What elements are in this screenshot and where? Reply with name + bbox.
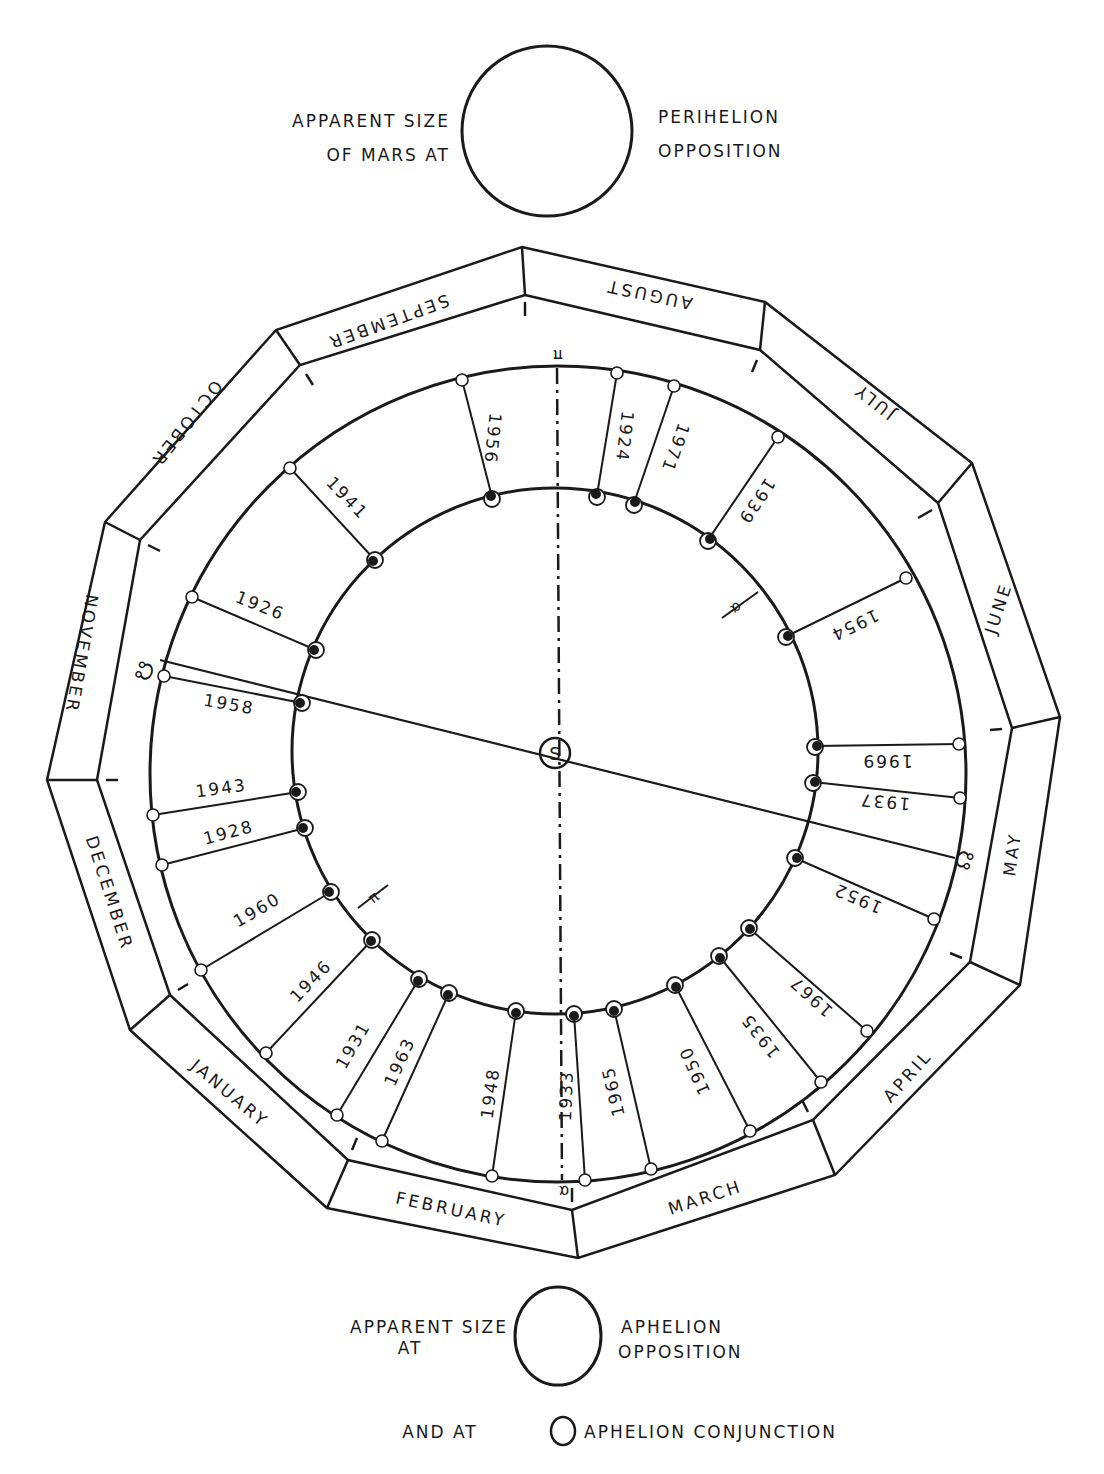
perihelion-symbol-top: π (551, 346, 563, 365)
month-september: SEPTEMBER (324, 290, 452, 353)
month-november: NOVEMBER (62, 593, 103, 716)
legend-top-right-line1: PERIHELION (658, 107, 780, 127)
year-1948: 1948 (477, 1066, 504, 1120)
year-1946: 1946 (286, 955, 336, 1006)
year-1958: 1958 (202, 690, 256, 719)
aphelion-conjunction-size-circle (551, 1417, 575, 1445)
year-1956: 1956 (480, 412, 505, 465)
year-1967: 1967 (785, 972, 836, 1021)
aphelion-opposition-size-circle (515, 1287, 601, 1385)
month-june: JUNE (980, 580, 1016, 637)
year-1971: 1971 (657, 421, 693, 476)
year-1969: 1969 (861, 751, 912, 771)
legend-top-right-line2: OPPOSITION (658, 141, 783, 161)
sun-label: S (549, 743, 560, 764)
month-april: APRIL (879, 1046, 936, 1106)
year-1924: 1924 (612, 410, 638, 463)
legend-bottom-left-line2: AT (398, 1338, 423, 1358)
legend-conjunction: APHELION CONJUNCTION (584, 1422, 837, 1442)
legend-bottom-right-line2: OPPOSITION (618, 1342, 743, 1362)
earth-perihelion-marker: π (358, 885, 388, 908)
legend-aphelion: APPARENT SIZE AT APHELION OPPOSITION AND… (350, 1287, 837, 1445)
mars-opposition-diagram: APPARENT SIZE OF MARS AT PERIHELION OPPO… (0, 0, 1104, 1474)
apsidal-line (557, 368, 562, 1180)
year-1954: 1954 (827, 605, 882, 645)
legend-and-at: AND AT (402, 1422, 478, 1442)
year-1935: 1935 (737, 1009, 784, 1062)
earth-aphelion-marker: α (722, 592, 758, 619)
month-may: MAY (999, 831, 1025, 878)
opposition-lines (153, 373, 960, 1180)
svg-text:α: α (725, 598, 745, 620)
year-1933: 1933 (555, 1070, 577, 1122)
year-1963: 1963 (380, 1034, 419, 1089)
legend-top-left-line2: OF MARS AT (326, 145, 450, 165)
legend-bottom-left-line1: APPARENT SIZE (350, 1317, 508, 1337)
year-1941: 1941 (322, 472, 372, 523)
year-1965: 1965 (598, 1064, 629, 1118)
month-march: MARCH (665, 1176, 744, 1219)
aphelion-symbol-bottom: α (557, 1182, 570, 1201)
legend-perihelion: APPARENT SIZE OF MARS AT PERIHELION OPPO… (292, 46, 783, 216)
perihelion-size-circle (462, 46, 632, 216)
year-1937: 1937 (858, 790, 911, 814)
year-1943: 1943 (194, 775, 248, 802)
sun: S (540, 738, 570, 768)
legend-top-left-line1: APPARENT SIZE (292, 111, 450, 131)
month-december: DECEMBER (82, 833, 138, 953)
month-august: AUGUST (603, 276, 694, 314)
node-symbol-left: ☊ (128, 658, 159, 687)
year-1939: 1939 (734, 475, 779, 529)
legend-bottom-right-line1: APHELION (621, 1317, 723, 1337)
